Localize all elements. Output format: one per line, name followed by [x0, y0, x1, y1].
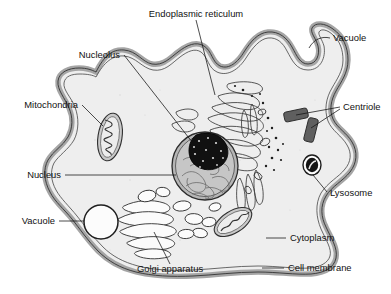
label-endoplasmic-reticulum: Endoplasmic reticulum: [149, 8, 243, 19]
label-nucleus: Nucleus: [27, 169, 61, 180]
label-vacuole-top: Vacuole: [333, 32, 366, 43]
label-mitochondria: Mitochondria: [24, 99, 78, 110]
nucleus: [172, 132, 238, 200]
label-cell-membrane: Cell membrane: [288, 262, 352, 273]
lysosome: [303, 155, 321, 175]
label-centriole: Centriole: [343, 101, 381, 112]
label-vacuole-left: Vacuole: [22, 215, 55, 226]
label-cytoplasm: Cytoplasm: [290, 232, 334, 243]
vacuole-left: [84, 205, 118, 239]
cell-diagram-canvas: Endoplasmic reticulum Nucleolus Mitochon…: [0, 0, 391, 294]
animal-cell-diagram: Endoplasmic reticulum Nucleolus Mitochon…: [0, 0, 391, 294]
label-nucleolus: Nucleolus: [79, 49, 120, 60]
label-lysosome: Lysosome: [330, 187, 372, 198]
label-golgi-apparatus: Golgi apparatus: [137, 263, 204, 274]
